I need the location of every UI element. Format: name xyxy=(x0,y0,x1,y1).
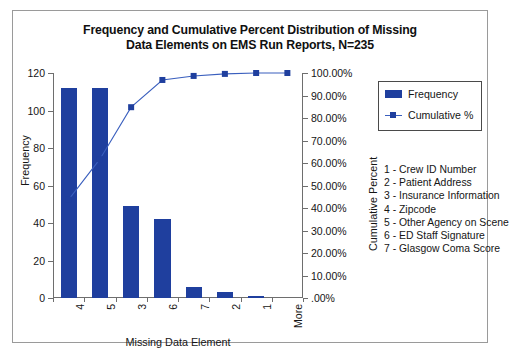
x-axis-tick-label: 3 xyxy=(136,304,148,310)
y-axis-left-tick-label: 100 xyxy=(27,105,45,117)
y-axis-right-tick xyxy=(303,118,308,119)
x-axis-tick xyxy=(241,298,242,302)
y-axis-right-tick xyxy=(303,96,308,97)
y-axis-right-tick-label: 80.00% xyxy=(311,112,347,124)
key-list-item: 4 - Zipcode xyxy=(384,203,509,216)
y-axis-right-tick-label: 20.00% xyxy=(311,247,347,259)
key-list-item: 5 - Other Agency on Scene xyxy=(384,216,509,229)
x-axis-tick xyxy=(147,298,148,302)
x-axis-tick-label: 6 xyxy=(167,304,179,310)
x-axis-tick-label: More xyxy=(292,304,304,328)
cumulative-line-series xyxy=(53,73,303,298)
bar-swatch-icon xyxy=(385,90,402,98)
chart-title-line-1: Frequency and Cumulative Percent Distrib… xyxy=(13,23,487,38)
chart-container: Frequency and Cumulative Percent Distrib… xyxy=(12,10,488,343)
y-axis-left-tick-label: 40 xyxy=(33,217,45,229)
y-axis-left-tick-label: 120 xyxy=(27,67,45,79)
x-axis-tick-label: 2 xyxy=(230,304,242,310)
x-axis-tick xyxy=(209,298,210,302)
legend-item-frequency: Frequency xyxy=(385,88,458,100)
y-axis-right-tick-label: 40.00% xyxy=(311,202,347,214)
y-axis-right-tick-label: 10.00% xyxy=(311,270,347,282)
x-axis-tick xyxy=(53,298,54,302)
cumulative-marker xyxy=(222,71,228,77)
y-axis-right-tick xyxy=(303,276,308,277)
y-axis-left-tick-label: 80 xyxy=(33,142,45,154)
y-axis-right-tick xyxy=(303,163,308,164)
x-axis-tick xyxy=(116,298,117,302)
line-marker-swatch-icon xyxy=(385,111,402,119)
legend-item-cumulative: Cumulative % xyxy=(385,109,473,121)
plot-area: 020406080100120 .00%10.00%20.00%30.00%40… xyxy=(53,73,303,298)
y-axis-right-tick xyxy=(303,208,308,209)
y-axis-right-tick-label: 60.00% xyxy=(311,157,347,169)
key-list-item: 7 - Glasgow Coma Score xyxy=(384,242,509,255)
y-axis-right-tick-label: 30.00% xyxy=(311,225,347,237)
cumulative-marker xyxy=(128,104,134,110)
y-axis-left-tick-label: 60 xyxy=(33,180,45,192)
y-axis-right-tick-label: 100.00% xyxy=(311,67,352,79)
cumulative-marker xyxy=(191,73,197,79)
cumulative-marker xyxy=(284,70,290,76)
legend-label-frequency: Frequency xyxy=(408,88,458,100)
cumulative-marker xyxy=(159,77,165,83)
x-axis-tick-label: 5 xyxy=(105,304,117,310)
key-list-item: 3 - Insurance Information xyxy=(384,189,509,202)
y-axis-title-right: Cumulative Percent xyxy=(367,157,379,251)
cumulative-line xyxy=(69,73,288,200)
chart-title: Frequency and Cumulative Percent Distrib… xyxy=(13,23,487,53)
y-axis-left-tick-label: 20 xyxy=(33,255,45,267)
y-axis-right-tick-label: 50.00% xyxy=(311,180,347,192)
element-key-list: 1 - Crew ID Number2 - Patient Address3 -… xyxy=(384,163,509,255)
x-axis-tick xyxy=(272,298,273,302)
cumulative-marker xyxy=(97,156,103,162)
x-axis-title: Missing Data Element xyxy=(53,336,303,348)
x-axis-tick xyxy=(178,298,179,302)
cumulative-marker xyxy=(253,70,259,76)
y-axis-left-tick-label: 0 xyxy=(39,292,45,304)
y-axis-right-tick-label: 70.00% xyxy=(311,135,347,147)
y-axis-title-left: Frequency xyxy=(19,135,31,186)
y-axis-right-tick xyxy=(303,73,308,74)
cumulative-marker xyxy=(66,197,72,203)
legend: Frequency Cumulative % xyxy=(378,81,482,131)
y-axis-right-tick-label: .00% xyxy=(311,292,335,304)
x-axis-tick-label: 7 xyxy=(199,304,211,310)
chart-title-line-2: Data Elements on EMS Run Reports, N=235 xyxy=(13,38,487,53)
x-axis-tick-label: 4 xyxy=(74,304,86,310)
legend-label-cumulative: Cumulative % xyxy=(408,109,473,121)
y-axis-right-tick xyxy=(303,141,308,142)
y-axis-right-tick xyxy=(303,231,308,232)
y-axis-right-tick xyxy=(303,253,308,254)
y-axis-right-tick xyxy=(303,186,308,187)
key-list-item: 1 - Crew ID Number xyxy=(384,163,509,176)
x-axis-tick xyxy=(84,298,85,302)
key-list-item: 6 - ED Staff Signature xyxy=(384,229,509,242)
x-axis-tick-label: 1 xyxy=(261,304,273,310)
x-axis-tick xyxy=(303,298,304,302)
y-axis-right-tick-label: 90.00% xyxy=(311,90,347,102)
key-list-item: 2 - Patient Address xyxy=(384,176,509,189)
